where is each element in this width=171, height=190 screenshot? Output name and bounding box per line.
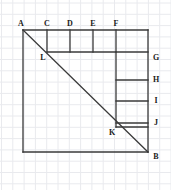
vertex-label-E: E [90,20,95,28]
vertex-label-G: G [153,54,159,62]
vertex-label-B: B [153,153,158,161]
vertex-label-A: A [18,20,24,28]
vertex-label-K: K [109,129,115,137]
figure-canvas: ACDEFGHIJBKL [0,0,171,190]
background-grid [0,0,171,190]
vertex-label-I: I [154,97,157,105]
vertex-label-H: H [153,76,159,84]
vertex-label-L: L [40,54,45,62]
geometry-diagram [0,0,171,190]
vertex-label-C: C [44,20,50,28]
vertex-label-F: F [114,20,119,28]
vertex-label-D: D [67,20,73,28]
vertex-label-J: J [154,119,158,127]
